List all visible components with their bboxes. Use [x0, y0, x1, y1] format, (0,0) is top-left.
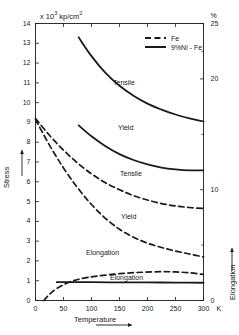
y2-axis-title: Elongation	[229, 265, 237, 300]
y-tick-7: 7	[27, 158, 31, 165]
annotation-2: Tensile	[120, 170, 142, 177]
annotation-4: Elongation	[86, 249, 119, 256]
y-tick-11: 11	[23, 79, 30, 86]
y-tick-0: 0	[27, 297, 31, 304]
x-unit-label: K	[217, 305, 222, 312]
temperature-axis-arrow-head	[128, 323, 132, 327]
curve-5	[57, 282, 204, 283]
y-tick-1: 1	[27, 277, 31, 284]
legend-sample-lines	[145, 38, 166, 47]
x-tick-250: 250	[170, 305, 182, 312]
y-tick-3: 3	[27, 237, 31, 244]
y-tick-2: 2	[27, 257, 31, 264]
y-tick-12: 12	[23, 59, 31, 66]
x-tick-100: 100	[86, 305, 98, 312]
x-axis-title: Temperature	[74, 316, 116, 324]
y2-tick-0: 0	[211, 297, 215, 304]
annotation-5: Elongation	[110, 274, 143, 281]
data-curves	[36, 37, 204, 300]
stress-axis-arrow-head	[20, 150, 24, 154]
y-tick-14: 14	[23, 20, 31, 27]
y2-unit-label: %	[211, 12, 217, 19]
y-unit-label: x 103 kp/cm2	[40, 11, 82, 20]
y-tick-8: 8	[27, 138, 31, 145]
y2-tick-25: 25	[211, 20, 219, 27]
x-tick-50: 50	[60, 305, 68, 312]
x-tick-300: 300	[198, 305, 210, 312]
chart-canvas	[0, 0, 239, 335]
x-tick-0: 0	[34, 305, 38, 312]
y-tick-10: 10	[23, 99, 31, 106]
figure-stress-elongation-vs-temperature: 0123456789101112131405010015020025030001…	[0, 0, 239, 335]
y-tick-13: 13	[23, 39, 31, 46]
y-tick-9: 9	[27, 118, 31, 125]
annotation-1: Yield	[118, 124, 133, 131]
y-axis-title: Stress	[3, 167, 11, 188]
y2-tick-10: 10	[211, 186, 219, 193]
curve-3	[36, 119, 204, 257]
x-tick-200: 200	[142, 305, 154, 312]
curve-1	[79, 125, 204, 170]
legend-label-1: 9%Ni - Fe	[171, 44, 202, 51]
elongation-axis-arrow-head	[230, 248, 234, 252]
y-tick-4: 4	[27, 217, 31, 224]
y-tick-6: 6	[27, 178, 31, 185]
annotation-0: Tensile	[113, 79, 135, 86]
axis-ticks	[36, 24, 204, 301]
y2-tick-20: 20	[211, 75, 219, 82]
x-tick-150: 150	[114, 305, 126, 312]
y-tick-5: 5	[27, 198, 31, 205]
plot-frame	[36, 24, 204, 301]
legend-label-0: Fe	[171, 35, 179, 42]
annotation-3: Yield	[121, 213, 136, 220]
